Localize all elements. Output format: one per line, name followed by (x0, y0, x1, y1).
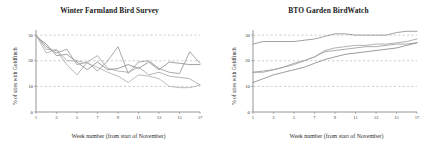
x-tick-label-11: 11 (353, 115, 358, 120)
chart-panel-bto-garden-birdwatch: BTO Garden BirdWatch 0102030135791113151… (219, 0, 438, 144)
data-series-3 (253, 43, 417, 72)
chart-panel-winter-farmland-bird-survey: Winter Farmland Bird Survey 010203013579… (0, 0, 219, 144)
chart-plot-right: 01020301357911131517 (219, 0, 438, 144)
data-series-1 (253, 31, 417, 44)
x-tick-label-5: 5 (293, 115, 296, 120)
y-tick-label-30: 30 (28, 33, 33, 38)
y-tick-label-0: 0 (31, 110, 34, 115)
x-tick-label-3: 3 (272, 115, 275, 120)
data-series-3 (36, 36, 200, 69)
x-tick-label-13: 13 (374, 115, 379, 120)
x-tick-label-17: 17 (198, 115, 203, 120)
y-tick-label-20: 20 (245, 58, 250, 63)
x-tick-label-7: 7 (96, 115, 99, 120)
data-series-2 (253, 39, 417, 72)
y-tick-label-20: 20 (28, 58, 33, 63)
x-tick-label-9: 9 (117, 115, 120, 120)
y-tick-label-10: 10 (28, 84, 33, 89)
x-tick-label-13: 13 (157, 115, 162, 120)
x-tick-label-3: 3 (55, 115, 58, 120)
y-axis-label-left: % of sites with Goldfinch (12, 48, 18, 105)
y-axis-label-right: % of sites with Goldfinch (231, 48, 237, 105)
y-tick-label-10: 10 (245, 84, 250, 89)
x-tick-label-15: 15 (177, 115, 182, 120)
figure-root: Winter Farmland Bird Survey 010203013579… (0, 0, 438, 144)
chart-plot-left: 01020301357911131517 (0, 0, 219, 144)
x-tick-label-15: 15 (394, 115, 399, 120)
y-tick-label-0: 0 (248, 110, 251, 115)
x-tick-label-9: 9 (334, 115, 337, 120)
x-tick-label-1: 1 (35, 115, 38, 120)
x-tick-label-11: 11 (136, 115, 141, 120)
x-tick-label-5: 5 (76, 115, 79, 120)
x-tick-label-17: 17 (415, 115, 420, 120)
data-series-4 (253, 43, 417, 83)
x-axis-label-left: Week number (from start of November) (0, 133, 219, 139)
x-axis-label-right: Week number (from start of November) (219, 133, 438, 139)
x-tick-label-7: 7 (313, 115, 316, 120)
y-tick-label-30: 30 (245, 33, 250, 38)
data-series-2 (36, 35, 200, 85)
x-tick-label-1: 1 (252, 115, 255, 120)
data-series-4 (36, 35, 200, 88)
